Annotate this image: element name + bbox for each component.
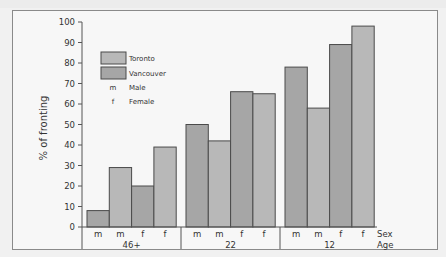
bar-46+-m-vancouver [87,211,109,227]
legend-swatch-toronto [101,52,126,64]
sex-label: m [292,229,300,239]
sex-row-label: Sex [377,229,393,239]
sex-label: f [362,229,366,239]
bar-chart: 0102030405060708090100 % of fronting mmf… [0,0,446,257]
y-tick-label: 50 [64,120,75,130]
sex-label: m [116,229,124,239]
legend-swatch-vancouver [101,67,126,79]
y-tick-label: 60 [64,99,75,109]
y-tick-label: 100 [59,17,75,27]
sex-label: f [164,229,168,239]
sex-label: f [240,229,244,239]
y-axis-title: % of fronting [38,96,49,161]
sex-label: f [141,229,145,239]
legend-label: Female [129,98,154,106]
age-group-label: 46+ [123,240,141,250]
age-row-label: Age [377,240,393,250]
y-tick-label: 0 [70,222,75,232]
legend-label: Vancouver [129,70,166,78]
sex-label: m [314,229,322,239]
bar-12-m-toronto [307,108,329,227]
age-group-label: 12 [324,240,335,250]
bar-22-f-vancouver [231,92,253,227]
legend: TorontoVancouvermMalefFemale [101,52,166,106]
y-axis: 0102030405060708090100 [59,17,82,232]
bar-46+-f-vancouver [132,186,154,227]
bar-12-f-vancouver [330,45,352,227]
sex-label: m [94,229,102,239]
legend-key-f: f [112,98,115,106]
bar-22-m-toronto [208,141,230,227]
bar-12-m-vancouver [285,67,307,227]
legend-label: Male [129,84,146,92]
sex-label: m [215,229,223,239]
y-tick-label: 70 [64,79,75,89]
sex-label: f [263,229,267,239]
y-tick-label: 80 [64,58,75,68]
age-group-label: 22 [225,240,236,250]
sex-label: m [193,229,201,239]
x-axis: mmff46+mmff22mmff12 [82,227,377,250]
bar-46+-f-toronto [154,147,176,227]
y-tick-label: 90 [64,38,75,48]
legend-key-m: m [110,84,117,92]
bar-22-m-vancouver [186,125,208,228]
y-tick-label: 20 [64,181,75,191]
y-tick-label: 30 [64,161,75,171]
bar-46+-m-toronto [109,168,131,227]
legend-label: Toronto [128,55,155,63]
sex-label: f [339,229,343,239]
y-tick-label: 40 [64,140,75,150]
bar-12-f-toronto [352,26,374,227]
bar-22-f-toronto [253,94,275,227]
y-tick-label: 10 [64,202,75,212]
